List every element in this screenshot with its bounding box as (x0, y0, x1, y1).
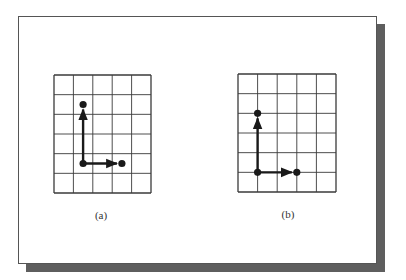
panel-a-caption: (a) (95, 209, 107, 221)
panel-b-diagram (238, 74, 336, 192)
origin-point (80, 160, 87, 167)
grid (238, 74, 336, 192)
panel-a-diagram (54, 75, 151, 193)
up-vector-endpoint (254, 110, 261, 117)
right-vector-endpoint (293, 169, 300, 176)
figure-canvas (0, 0, 406, 280)
up-vector-endpoint (80, 101, 87, 108)
right-vector-endpoint (118, 160, 125, 167)
origin-point (254, 169, 261, 176)
grid (54, 75, 151, 193)
panel-b-caption: (b) (282, 208, 295, 220)
